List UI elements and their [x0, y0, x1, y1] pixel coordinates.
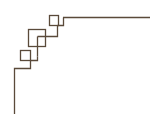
lower-connector [31, 57, 38, 61]
top-box [50, 16, 59, 26]
lower-box [21, 51, 31, 61]
top-box-drop [38, 26, 58, 37]
ornament-graphic [0, 0, 165, 116]
corner-ornament [0, 0, 165, 116]
lower-drop [15, 61, 31, 115]
